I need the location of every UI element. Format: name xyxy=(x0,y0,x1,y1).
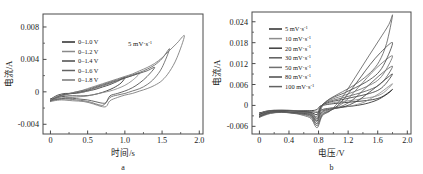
y-tick-label: 0.018 xyxy=(230,39,248,48)
x-tick-label: 0.5 xyxy=(83,136,93,145)
y-tick-label: 0.024 xyxy=(230,18,248,27)
y-axis-label: 电流/A xyxy=(3,60,14,87)
x-tick-label: 0.8 xyxy=(313,136,323,145)
panel-b: 00.40.81.21.62.0-0.00600.0060.0120.0180.… xyxy=(211,0,422,174)
legend-label: 0–1.2 V xyxy=(78,48,99,55)
x-axis-label: 电压/V xyxy=(318,147,345,158)
x-tick-label: 0.4 xyxy=(284,136,294,145)
y-tick-label: 0 xyxy=(35,88,39,97)
panel-letter: b xyxy=(330,163,334,172)
x-tick-label: 1.5 xyxy=(157,136,167,145)
panel-a-canvas: 00.51.01.52.0-0.00400.0040.008时间/s电流/Aa0… xyxy=(0,0,211,174)
plot-frame xyxy=(252,12,411,134)
x-axis-label: 时间/s xyxy=(111,147,135,158)
panel-a-plot: 00.51.01.52.0-0.00400.0040.008时间/s电流/Aa0… xyxy=(0,0,211,174)
figure-container: 00.51.01.52.0-0.00400.0040.008时间/s电流/Aa0… xyxy=(0,0,423,174)
x-tick-label: 2.0 xyxy=(402,136,412,145)
y-tick-label: 0 xyxy=(244,101,248,110)
x-tick-label: 1.6 xyxy=(373,136,383,145)
x-tick-label: 1.2 xyxy=(343,136,353,145)
legend-label: 0–1.6 V xyxy=(78,67,99,74)
x-tick-label: 0 xyxy=(257,136,261,145)
plot-frame xyxy=(43,14,203,134)
x-tick-label: 0 xyxy=(48,136,52,145)
panel-b-plot: 00.40.81.21.62.0-0.00600.0060.0120.0180.… xyxy=(211,0,422,174)
y-tick-label: 0.008 xyxy=(21,23,39,32)
legend-label: 0–1.8 V xyxy=(78,76,99,83)
y-tick-label: -0.004 xyxy=(18,120,39,129)
x-tick-label: 2.0 xyxy=(194,136,204,145)
y-tick-label: 0.012 xyxy=(230,60,248,69)
legend-label: 0–1.4 V xyxy=(78,57,99,64)
panel-letter: a xyxy=(121,163,125,172)
y-tick-label: 0.004 xyxy=(21,55,39,64)
legend-label: 0–1.0 V xyxy=(78,38,99,45)
y-axis-label: 电流/A xyxy=(211,59,222,86)
panel-a: 00.51.01.52.0-0.00400.0040.008时间/s电流/Aa0… xyxy=(0,0,211,174)
panel-b-canvas: 00.40.81.21.62.0-0.00600.0060.0120.0180.… xyxy=(211,0,422,174)
y-tick-label: -0.006 xyxy=(227,122,248,131)
y-tick-label: 0.006 xyxy=(230,81,248,90)
x-tick-label: 1.0 xyxy=(120,136,130,145)
